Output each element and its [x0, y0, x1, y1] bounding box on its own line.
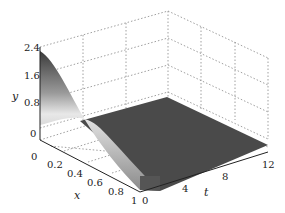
x-tick: 0.8 [108, 186, 124, 197]
x-tick: 0.2 [47, 159, 63, 170]
t-axis-label: t [204, 186, 209, 199]
y-tick: 0.8 [24, 97, 40, 108]
x-tick: 0 [31, 151, 37, 162]
y-tick: 0 [30, 128, 36, 139]
x-tick: 1 [131, 195, 137, 206]
x-axis-label: x [74, 189, 81, 202]
y-tick: 1.6 [24, 70, 40, 81]
t-tick: 4 [182, 183, 188, 194]
y-axis-label: y [11, 90, 19, 103]
t-tick: 8 [222, 171, 228, 182]
surface-plot: 2.4 1.6 0.8 0 y 0 0.2 0.4 0.6 0.8 1 x 0 … [0, 0, 285, 213]
t-tick: 12 [262, 159, 275, 170]
y-tick: 2.4 [24, 42, 40, 53]
t-tick: 0 [142, 195, 148, 206]
x-tick: 0.6 [87, 177, 103, 188]
x-tick: 0.4 [67, 168, 83, 179]
